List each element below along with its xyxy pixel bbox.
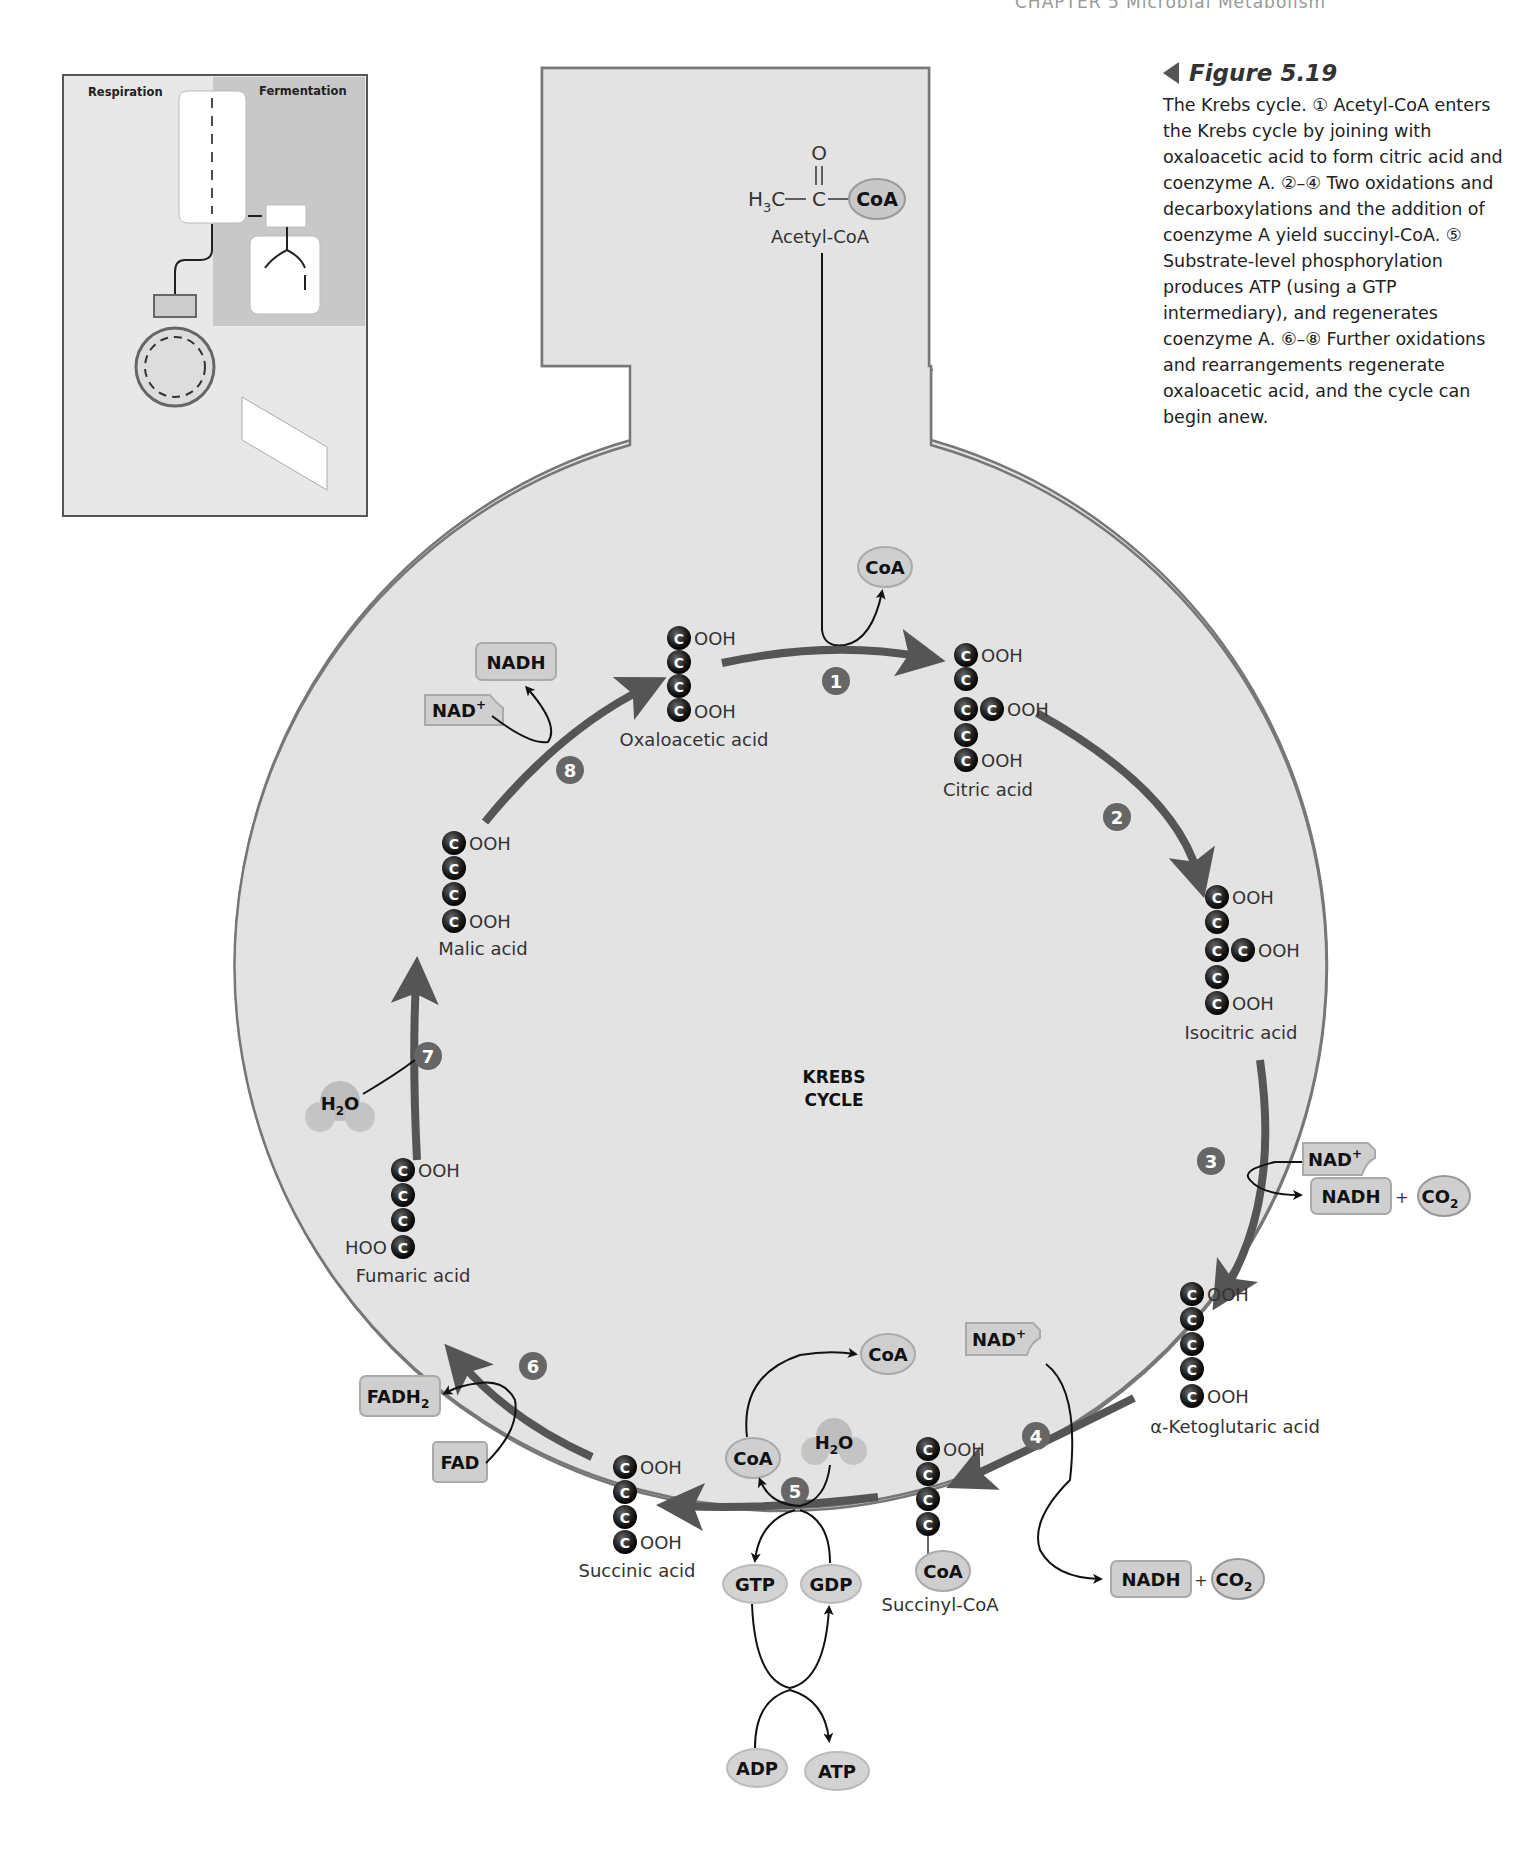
svg-text:C: C: [398, 1240, 408, 1256]
svg-text:8: 8: [564, 760, 577, 781]
svg-text:C: C: [449, 836, 459, 852]
svg-text:OOH: OOH: [1232, 993, 1274, 1014]
compound-label: Succinic acid: [578, 1560, 695, 1581]
svg-text:C: C: [812, 187, 826, 211]
svg-text:OOH: OOH: [943, 1439, 985, 1460]
compound-label: Fumaric acid: [356, 1265, 471, 1286]
pointer-left-icon: [1163, 62, 1179, 84]
svg-text:NADH: NADH: [1121, 1569, 1180, 1590]
svg-text:OOH: OOH: [694, 701, 736, 722]
gtp-label: GTP: [735, 1574, 775, 1595]
svg-text:4: 4: [1030, 1426, 1043, 1447]
svg-text:OOH: OOH: [1232, 887, 1274, 908]
svg-text:OOH: OOH: [640, 1532, 682, 1553]
step-badge-2: 2: [1103, 803, 1131, 831]
compound-label: Succinyl-CoA: [881, 1594, 999, 1615]
svg-text:OOH: OOH: [418, 1160, 460, 1181]
svg-text:NADH: NADH: [1321, 1186, 1380, 1207]
svg-text:NADH: NADH: [486, 652, 545, 673]
step-badge-6: 6: [519, 1352, 547, 1380]
svg-text:HOO: HOO: [345, 1237, 387, 1258]
svg-text:CYCLE: CYCLE: [804, 1090, 863, 1110]
svg-text:C: C: [1187, 1287, 1197, 1303]
svg-text:C: C: [674, 655, 684, 671]
svg-text:C: C: [1187, 1389, 1197, 1405]
compound-label: Isocitric acid: [1184, 1022, 1297, 1043]
svg-text:C: C: [1187, 1312, 1197, 1328]
inset-respiration-label: Respiration: [88, 85, 163, 99]
svg-text:C: C: [923, 1467, 933, 1483]
svg-text:5: 5: [789, 1481, 802, 1502]
svg-text:+: +: [1194, 1571, 1207, 1590]
acetyl-coa-label: Acetyl-CoA: [771, 226, 870, 247]
svg-text:C: C: [674, 631, 684, 647]
running-head: CHAPTER 5 Microbial Metabolism: [1015, 0, 1326, 12]
svg-text:1: 1: [830, 671, 843, 692]
svg-text:C: C: [1212, 943, 1222, 959]
svg-text:C: C: [923, 1492, 933, 1508]
step-badge-8: 8: [556, 756, 584, 784]
svg-text:CoA: CoA: [856, 188, 898, 210]
svg-text:C: C: [620, 1460, 630, 1476]
svg-text:C: C: [1187, 1337, 1197, 1353]
orientation-inset: Respiration Fermentation: [63, 75, 367, 516]
svg-text:C: C: [1212, 970, 1222, 986]
step-badge-1: 1: [822, 667, 850, 695]
compound-label: α-Ketoglutaric acid: [1150, 1416, 1320, 1437]
svg-text:C: C: [1212, 915, 1222, 931]
svg-text:OOH: OOH: [1007, 699, 1049, 720]
svg-text:C: C: [1238, 943, 1248, 959]
svg-text:C: C: [961, 753, 971, 769]
svg-text:CoA: CoA: [923, 1561, 963, 1582]
svg-text:FAD: FAD: [440, 1452, 479, 1473]
figure-number: Figure 5.19: [1189, 60, 1337, 86]
svg-text:+: +: [1395, 1188, 1408, 1207]
svg-text:OOH: OOH: [981, 750, 1023, 771]
svg-text:C: C: [674, 679, 684, 695]
svg-text:OOH: OOH: [469, 833, 511, 854]
svg-text:OOH: OOH: [640, 1457, 682, 1478]
svg-text:C: C: [398, 1163, 408, 1179]
svg-text:OOH: OOH: [1207, 1284, 1249, 1305]
svg-text:C: C: [961, 648, 971, 664]
caption-text: The Krebs cycle. ① Acetyl-CoA enters the…: [1163, 92, 1503, 430]
svg-text:C: C: [449, 914, 459, 930]
svg-text:C: C: [620, 1510, 630, 1526]
svg-text:OOH: OOH: [1258, 940, 1300, 961]
step-badge-4: 4: [1022, 1422, 1050, 1450]
svg-text:C: C: [398, 1213, 408, 1229]
krebs-cycle-figure: CHAPTER 5 Microbial Metabolism Respirati…: [0, 0, 1532, 1865]
svg-text:7: 7: [422, 1046, 435, 1067]
svg-text:C: C: [923, 1517, 933, 1533]
svg-text:KREBS: KREBS: [802, 1067, 865, 1087]
svg-text:C: C: [1212, 890, 1222, 906]
compound-label: Malic acid: [438, 938, 528, 959]
figure-caption: Figure 5.19 The Krebs cycle. ① Acetyl-Co…: [1163, 60, 1503, 430]
svg-text:OOH: OOH: [1207, 1386, 1249, 1407]
svg-text:C: C: [449, 861, 459, 877]
svg-text:C: C: [923, 1442, 933, 1458]
svg-text:O: O: [811, 141, 827, 165]
svg-text:CoA: CoA: [868, 1344, 908, 1365]
svg-text:C: C: [1212, 996, 1222, 1012]
compound-label: Oxaloacetic acid: [620, 729, 769, 750]
svg-text:OOH: OOH: [469, 911, 511, 932]
svg-text:3: 3: [1205, 1151, 1218, 1172]
svg-text:C: C: [987, 702, 997, 718]
svg-text:C: C: [620, 1485, 630, 1501]
svg-text:C: C: [1187, 1362, 1197, 1378]
svg-text:C: C: [398, 1188, 408, 1204]
svg-text:C: C: [961, 672, 971, 688]
svg-text:CoA: CoA: [865, 557, 905, 578]
svg-text:CoA: CoA: [733, 1448, 773, 1469]
compound-label: Citric acid: [943, 779, 1033, 800]
step-badge-3: 3: [1197, 1147, 1225, 1175]
step-badge-5: 5: [781, 1477, 809, 1505]
gdp-label: GDP: [810, 1574, 853, 1595]
svg-text:C: C: [674, 703, 684, 719]
svg-text:OOH: OOH: [981, 645, 1023, 666]
svg-text:C: C: [961, 702, 971, 718]
step-badge-7: 7: [414, 1042, 442, 1070]
svg-text:2: 2: [1111, 807, 1124, 828]
svg-text:6: 6: [527, 1356, 540, 1377]
